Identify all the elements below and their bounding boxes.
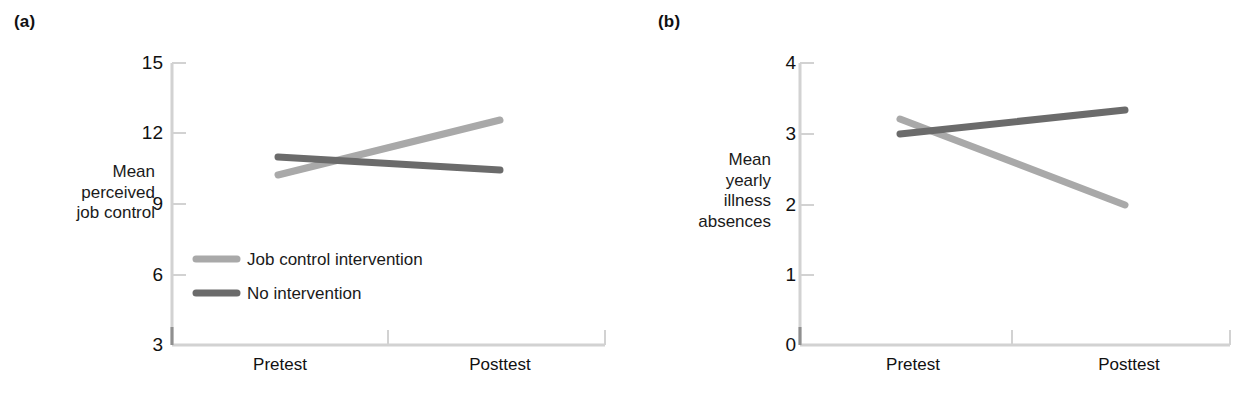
panel-b-series-no-intervention [900, 110, 1125, 134]
panel-a: (a) Mean perceived job control 15 12 9 6… [0, 0, 621, 394]
panel-b: (b) Mean yearly illness absences 4 3 2 1… [621, 0, 1243, 394]
panel-a-plot [0, 0, 621, 394]
figure-two-panel-line-charts: (a) Mean perceived job control 15 12 9 6… [0, 0, 1243, 394]
panel-b-plot [621, 0, 1243, 394]
